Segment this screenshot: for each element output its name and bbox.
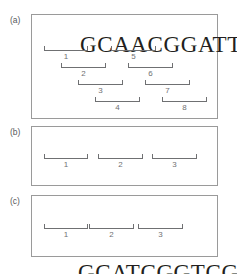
bracket <box>98 154 143 159</box>
bracket <box>152 154 197 159</box>
bracket <box>61 63 106 68</box>
bracket-tick-left <box>44 224 45 229</box>
bracket-tick-left <box>145 80 146 85</box>
bracket-number: 1 <box>44 160 88 169</box>
bracket-tick-right <box>139 97 140 102</box>
bracket-tick-left <box>95 97 96 102</box>
bracket-tick-left <box>162 97 163 102</box>
bracket-tick-right <box>142 154 143 159</box>
bracket-number: 7 <box>145 86 190 95</box>
panel-a: GCAACGGATT 12345678 <box>31 14 218 119</box>
bracket-tick-left <box>111 46 112 51</box>
bracket-bar <box>162 101 207 102</box>
bracket <box>44 154 88 159</box>
bracket-tick-right <box>182 224 183 229</box>
panel-label-b: (b) <box>10 127 20 137</box>
bracket-tick-right <box>122 80 123 85</box>
bracket-tick-left <box>138 224 139 229</box>
bracket-number: 8 <box>162 103 207 112</box>
bracket-tick-left <box>98 154 99 159</box>
bracket-tick-right <box>87 46 88 51</box>
bracket-bar <box>78 84 123 85</box>
bracket <box>44 46 88 51</box>
bracket <box>145 80 190 85</box>
bracket-bar <box>128 67 173 68</box>
bracket <box>78 80 123 85</box>
bracket <box>111 46 156 51</box>
bracket-tick-right <box>196 154 197 159</box>
bracket-bar <box>98 158 143 159</box>
sequence-text-b: GCATCGGTCGA <box>78 261 237 274</box>
bracket-number: 3 <box>152 160 197 169</box>
bracket-tick-right <box>206 97 207 102</box>
bracket-bar <box>152 158 197 159</box>
panel-b: GCATCGGTCGA 123 <box>31 126 218 186</box>
bracket <box>44 224 88 229</box>
bracket-number: 2 <box>89 230 134 239</box>
bracket-bar <box>145 84 190 85</box>
bracket-number: 1 <box>44 52 88 61</box>
bracket-bar <box>95 101 140 102</box>
bracket-bar <box>89 228 134 229</box>
bracket-number: 1 <box>44 230 88 239</box>
bracket-tick-left <box>61 63 62 68</box>
bracket-bar <box>44 50 88 51</box>
panel-c: GCAACGGAT 123 <box>31 195 218 257</box>
bracket-tick-left <box>44 46 45 51</box>
bracket-number: 2 <box>98 160 143 169</box>
bracket-number: 3 <box>138 230 183 239</box>
bracket-tick-right <box>133 224 134 229</box>
bracket-tick-right <box>87 154 88 159</box>
bracket-tick-left <box>44 154 45 159</box>
bracket-number: 2 <box>61 69 106 78</box>
bracket <box>138 224 183 229</box>
bracket-tick-right <box>87 224 88 229</box>
panel-label-c: (c) <box>10 196 20 206</box>
bracket-bar <box>44 158 88 159</box>
sequence-text-a: GCAACGGATT <box>80 33 237 56</box>
bracket <box>95 97 140 102</box>
bracket-tick-left <box>152 154 153 159</box>
bracket <box>89 224 134 229</box>
bracket-tick-left <box>89 224 90 229</box>
bracket-number: 6 <box>128 69 173 78</box>
bracket-number: 3 <box>78 86 123 95</box>
bracket-tick-right <box>189 80 190 85</box>
panel-label-a: (a) <box>10 15 20 25</box>
bracket-tick-right <box>155 46 156 51</box>
bracket-tick-right <box>105 63 106 68</box>
bracket-bar <box>111 50 156 51</box>
bracket-number: 4 <box>95 103 140 112</box>
bracket-number: 5 <box>111 52 156 61</box>
bracket-tick-right <box>172 63 173 68</box>
bracket <box>128 63 173 68</box>
bracket-tick-left <box>78 80 79 85</box>
sequence-bracket-figure: (a) GCAACGGATT 12345678 (b) GCATCGGTCGA … <box>0 0 237 274</box>
bracket <box>162 97 207 102</box>
bracket-bar <box>138 228 183 229</box>
bracket-bar <box>61 67 106 68</box>
bracket-tick-left <box>128 63 129 68</box>
bracket-bar <box>44 228 88 229</box>
